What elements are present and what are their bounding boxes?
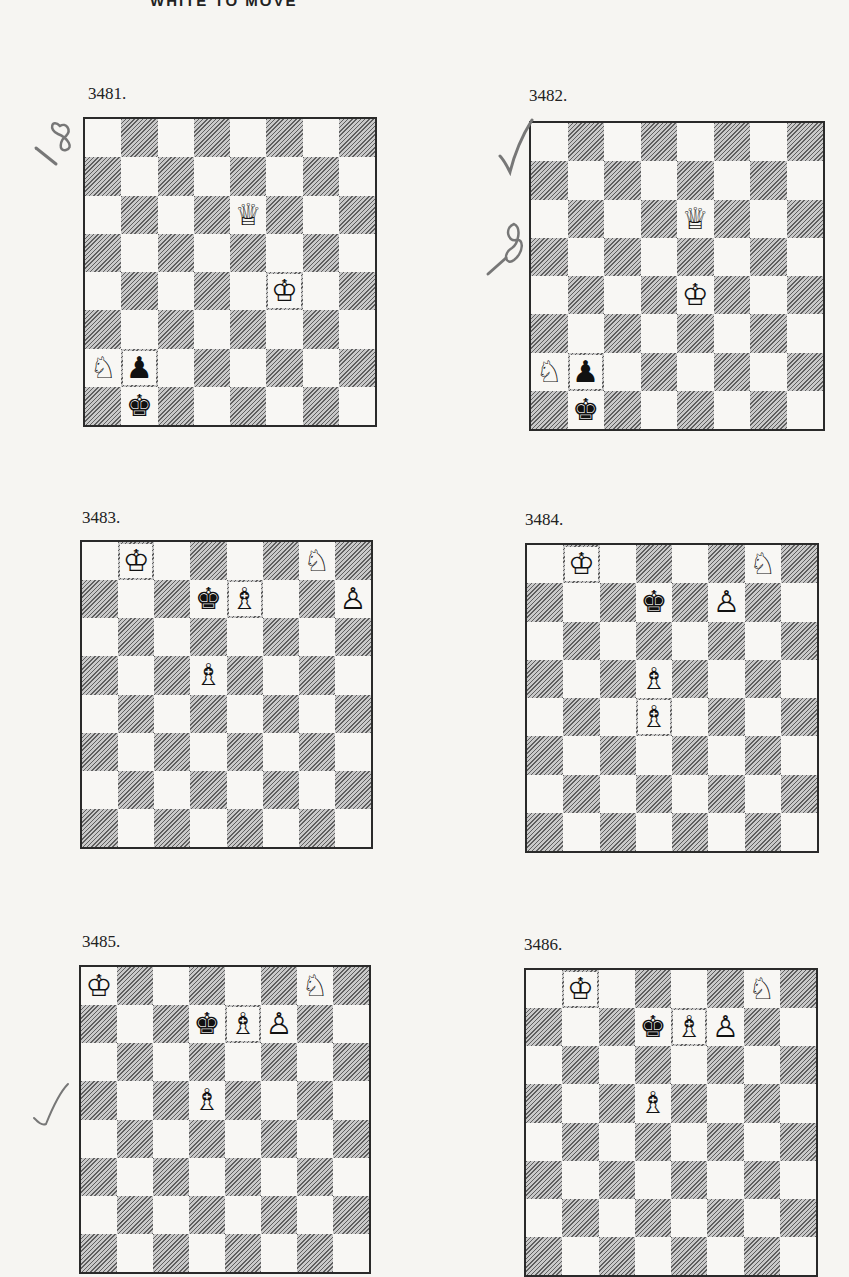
black-king-icon: ♚ xyxy=(640,587,667,617)
square-g6 xyxy=(297,1043,333,1081)
square-b6 xyxy=(118,618,154,656)
square-g7 xyxy=(750,161,787,199)
square-a8 xyxy=(531,123,568,161)
square-c4 xyxy=(600,698,636,736)
square-h6 xyxy=(333,1043,369,1081)
square-c1 xyxy=(154,809,190,847)
square-e7 xyxy=(677,161,714,199)
square-b8: ♔ xyxy=(118,542,154,580)
square-b3 xyxy=(121,310,157,348)
white-bishop-icon: ♗ xyxy=(640,664,667,694)
square-f4: ♔ xyxy=(266,272,302,310)
square-g1 xyxy=(303,387,339,425)
white-king-icon: ♔ xyxy=(86,971,113,1001)
square-a7 xyxy=(526,1008,562,1046)
white-bishop-icon: ♗ xyxy=(231,584,258,614)
square-f7: ♙ xyxy=(708,583,744,621)
square-a2 xyxy=(81,1196,117,1234)
square-f3 xyxy=(263,733,299,771)
square-b3 xyxy=(562,1161,598,1199)
square-a8 xyxy=(527,545,563,583)
square-a7 xyxy=(531,161,568,199)
square-d2 xyxy=(636,775,672,813)
square-b7 xyxy=(117,1005,153,1043)
square-g8: ♘ xyxy=(297,967,333,1005)
diagram-number: 3482. xyxy=(529,86,567,106)
square-h2 xyxy=(333,1196,369,1234)
square-b7 xyxy=(562,1008,598,1046)
square-d8 xyxy=(194,119,230,157)
square-b6 xyxy=(117,1043,153,1081)
square-a1 xyxy=(527,813,563,851)
square-e2 xyxy=(677,353,714,391)
square-f5 xyxy=(708,660,744,698)
square-f2 xyxy=(714,353,751,391)
square-f4 xyxy=(261,1120,297,1158)
square-f5 xyxy=(266,234,302,272)
square-b5 xyxy=(562,1084,598,1122)
square-d7: ♚ xyxy=(189,1005,225,1043)
square-a4 xyxy=(531,276,568,314)
square-f1 xyxy=(714,391,751,429)
square-c8 xyxy=(153,967,189,1005)
square-e4 xyxy=(227,695,263,733)
square-b7 xyxy=(563,583,599,621)
square-e3 xyxy=(677,314,714,352)
square-f1 xyxy=(261,1234,297,1272)
square-f5 xyxy=(714,238,751,276)
square-e8 xyxy=(227,542,263,580)
square-b1: ♚ xyxy=(121,387,157,425)
square-h2 xyxy=(787,353,824,391)
square-e3 xyxy=(671,1161,707,1199)
white-king-icon: ♔ xyxy=(123,546,150,576)
square-e7: ♗ xyxy=(225,1005,261,1043)
square-b3 xyxy=(117,1158,153,1196)
chessboard: ♔♘♚♗♙♗ xyxy=(79,965,371,1274)
square-g8: ♘ xyxy=(744,970,780,1008)
square-g8: ♘ xyxy=(745,545,781,583)
square-g1 xyxy=(744,1237,780,1275)
square-g8: ♘ xyxy=(299,542,335,580)
square-d2 xyxy=(189,1196,225,1234)
diagram-number: 3485. xyxy=(82,932,120,952)
square-a7 xyxy=(82,580,118,618)
square-e2 xyxy=(227,771,263,809)
square-b8: ♔ xyxy=(562,970,598,1008)
square-b4 xyxy=(568,276,605,314)
white-king-icon: ♔ xyxy=(682,280,709,310)
square-b4 xyxy=(121,272,157,310)
square-c2 xyxy=(600,775,636,813)
square-c4 xyxy=(599,1123,635,1161)
square-b1 xyxy=(117,1234,153,1272)
square-b6 xyxy=(121,196,157,234)
square-c2 xyxy=(154,771,190,809)
square-h8 xyxy=(780,970,816,1008)
diagram-number: 3484. xyxy=(525,510,563,530)
square-a5 xyxy=(526,1084,562,1122)
diagram-number: 3486. xyxy=(524,935,562,955)
square-c6 xyxy=(600,622,636,660)
square-f6 xyxy=(263,618,299,656)
square-f3 xyxy=(714,314,751,352)
square-f7: ♙ xyxy=(707,1008,743,1046)
square-b6 xyxy=(562,1046,598,1084)
square-f2 xyxy=(263,771,299,809)
square-c3 xyxy=(604,314,641,352)
square-e2 xyxy=(230,349,266,387)
square-d1 xyxy=(190,809,226,847)
square-b8 xyxy=(117,967,153,1005)
square-c3 xyxy=(154,733,190,771)
square-g4 xyxy=(297,1120,333,1158)
square-g5 xyxy=(745,660,781,698)
white-knight-icon: ♘ xyxy=(536,357,563,387)
square-e1 xyxy=(672,813,708,851)
square-h2 xyxy=(335,771,371,809)
square-d4 xyxy=(189,1120,225,1158)
square-a2 xyxy=(526,1199,562,1237)
square-d6 xyxy=(189,1043,225,1081)
square-c6 xyxy=(604,200,641,238)
square-e6 xyxy=(672,622,708,660)
square-a7 xyxy=(81,1005,117,1043)
square-g5 xyxy=(750,238,787,276)
square-c7 xyxy=(158,157,194,195)
